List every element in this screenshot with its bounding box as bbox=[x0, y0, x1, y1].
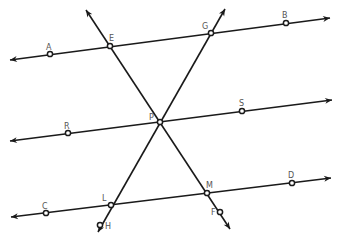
point-g bbox=[208, 30, 213, 35]
point-label-c: C bbox=[42, 202, 48, 211]
transversal-ef-arrow-start-icon bbox=[86, 10, 92, 17]
point-label-f: F bbox=[211, 208, 216, 217]
point-e bbox=[107, 43, 112, 48]
point-label-e: E bbox=[109, 34, 114, 43]
point-label-l: L bbox=[102, 194, 107, 203]
point-m bbox=[204, 190, 209, 195]
point-f bbox=[217, 209, 222, 214]
point-label-p: P bbox=[149, 113, 154, 122]
point-label-d: D bbox=[288, 171, 294, 180]
line-ab bbox=[10, 16, 330, 62]
point-b bbox=[283, 20, 288, 25]
point-r bbox=[65, 130, 70, 135]
point-a bbox=[47, 51, 52, 56]
point-s bbox=[239, 108, 244, 113]
point-c bbox=[43, 210, 48, 215]
lines-layer bbox=[10, 9, 332, 232]
transversal-ef-arrow-end-icon bbox=[224, 222, 230, 229]
point-label-g: G bbox=[202, 22, 208, 31]
point-label-m: M bbox=[206, 181, 213, 190]
point-label-a: A bbox=[46, 43, 52, 52]
point-d bbox=[289, 180, 294, 185]
line-cd-segment bbox=[11, 178, 331, 217]
point-label-r: R bbox=[64, 122, 70, 131]
point-h bbox=[97, 222, 102, 227]
point-label-s: S bbox=[239, 99, 244, 108]
point-p bbox=[157, 119, 162, 124]
point-l bbox=[108, 202, 113, 207]
geometry-diagram: AEGBRPSCLMDFH bbox=[0, 0, 337, 238]
line-ab-segment bbox=[10, 18, 330, 60]
line-rs-segment bbox=[10, 100, 332, 141]
points-layer bbox=[43, 20, 294, 227]
line-cd bbox=[11, 176, 331, 219]
point-label-h: H bbox=[105, 222, 111, 231]
point-label-b: B bbox=[282, 11, 288, 20]
